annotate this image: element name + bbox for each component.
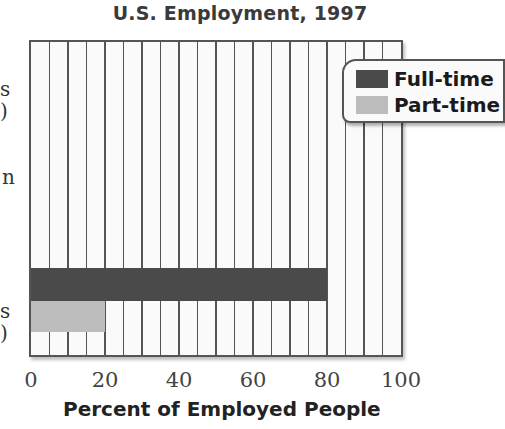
legend-swatch-part-time bbox=[356, 96, 388, 114]
legend-label: Full-time bbox=[394, 67, 494, 91]
gridline bbox=[178, 42, 180, 355]
y-category-label-fragment: ) bbox=[0, 322, 8, 344]
gridline bbox=[160, 42, 162, 355]
bar-full-time bbox=[31, 268, 327, 301]
x-tick-label: 60 bbox=[240, 368, 267, 392]
x-tick-label: 80 bbox=[314, 368, 341, 392]
bar-part-time bbox=[31, 301, 105, 332]
gridline bbox=[123, 42, 125, 355]
legend-item-part-time: Part-time bbox=[356, 93, 500, 117]
x-axis-label: Percent of Employed People bbox=[63, 397, 381, 421]
x-tick-label: 40 bbox=[166, 368, 193, 392]
gridline bbox=[252, 42, 254, 355]
y-category-label-fragment: s bbox=[0, 78, 10, 100]
chart-title: U.S. Employment, 1997 bbox=[110, 2, 370, 24]
legend: Full-time Part-time bbox=[342, 59, 505, 123]
x-tick-label: 20 bbox=[92, 368, 119, 392]
y-category-label-fragment: s bbox=[0, 300, 10, 322]
x-tick-label: 0 bbox=[24, 368, 37, 392]
gridline bbox=[141, 42, 143, 355]
gridline bbox=[234, 42, 236, 355]
y-category-label-fragment: ) bbox=[0, 100, 8, 122]
gridline bbox=[197, 42, 199, 355]
gridline bbox=[271, 42, 273, 355]
legend-label: Part-time bbox=[394, 93, 500, 117]
gridline bbox=[326, 42, 328, 355]
x-tick-label: 100 bbox=[381, 368, 421, 392]
gridline bbox=[308, 42, 310, 355]
y-category-label-fragment: n bbox=[2, 166, 15, 188]
gridline bbox=[215, 42, 217, 355]
legend-item-full-time: Full-time bbox=[356, 67, 494, 91]
gridline bbox=[289, 42, 291, 355]
legend-swatch-full-time bbox=[356, 70, 388, 88]
